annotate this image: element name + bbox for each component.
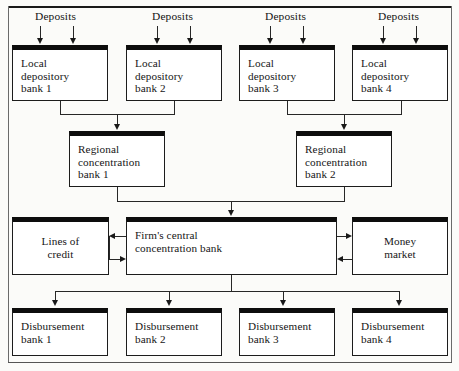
firms-central-concentration-bank-label: Firm's central concentration bank [135,229,222,254]
disbursement-bank-3-label: Disbursement bank 3 [248,320,311,345]
deposit-arrowhead-4a [380,38,386,44]
regional-concentration-bank-1-label: Regional concentration bank 1 [78,143,140,181]
firms-central-concentration-bank[interactable]: Firm's central concentration bank [126,217,337,275]
deposit-arrowhead-2a [154,38,160,44]
credit-elbow-riser [109,236,110,260]
lines-of-credit-label: Lines of credit [42,235,80,260]
local2-dropline [174,101,175,114]
credit-to-central-arrowhead [120,256,126,262]
deposit-arrowhead-3b [300,38,306,44]
local1-dropline [60,101,61,114]
money-to-central-arrowhead [337,256,343,262]
deposit-arrowhead-3a [267,38,273,44]
frame-left-rule [8,6,9,363]
local-depository-bank-1[interactable]: Local depository bank 1 [12,45,108,101]
regional-concentration-bank-2[interactable]: Regional concentration bank 2 [296,131,392,187]
money-market-label: Money market [384,235,416,260]
central-feed-arrowhead [228,210,234,216]
disbursement-bank-4[interactable]: Disbursement bank 4 [352,308,448,356]
money-elbow-riser [352,236,353,260]
local4-dropline [401,101,402,114]
deposits-label-4: Deposits [378,10,419,22]
local3-dropline [287,101,288,114]
disbursement-bank-2-label: Disbursement bank 2 [135,320,198,345]
deposits-label-2: Deposits [152,10,193,22]
disbursement1-feed-arrowhead [52,300,58,306]
diagram-canvas: Deposits Deposits Deposits Deposits Loca… [0,0,459,371]
disbursement-bank-1-label: Disbursement bank 1 [21,320,84,345]
frame-top-rule [8,6,452,8]
local-depository-bank-2[interactable]: Local depository bank 2 [126,45,222,101]
deposit-arrowhead-1a [37,38,43,44]
central-to-credit-line [115,236,126,237]
disbursement-fanout-bus [55,291,399,292]
deposits-label-1: Deposits [35,10,76,22]
deposits-label-3: Deposits [265,10,306,22]
disbursement-bank-1[interactable]: Disbursement bank 1 [12,308,108,356]
frame-right-rule [451,6,452,363]
frame-bottom-rule [8,362,452,363]
credit-to-central-line [109,259,120,260]
deposit-arrowhead-2b [187,38,193,44]
local-depository-bank-4-label: Local depository bank 4 [361,57,409,95]
regional1-dropline [117,187,118,201]
regional-concentration-bank-1[interactable]: Regional concentration bank 1 [69,131,165,187]
local-depository-bank-2-label: Local depository bank 2 [135,57,183,95]
disbursement-bank-2[interactable]: Disbursement bank 2 [126,308,222,356]
central-dropline [231,275,232,291]
local-depository-bank-3[interactable]: Local depository bank 3 [239,45,335,101]
disbursement-bank-4-label: Disbursement bank 4 [361,320,424,345]
deposit-arrowhead-1b [70,38,76,44]
local-depository-bank-4[interactable]: Local depository bank 4 [352,45,448,101]
disbursement3-feed-arrowhead [280,300,286,306]
regional1-feed-arrowhead [114,124,120,130]
regional2-feed-arrowhead [341,124,347,130]
local-depository-bank-1-label: Local depository bank 1 [21,57,69,95]
disbursement-bank-3[interactable]: Disbursement bank 3 [239,308,335,356]
disbursement4-feed-arrowhead [396,300,402,306]
money-market[interactable]: Money market [352,217,448,275]
local-depository-bank-3-label: Local depository bank 3 [248,57,296,95]
lines-of-credit[interactable]: Lines of credit [12,217,109,275]
regional2-dropline [344,187,345,201]
disbursement2-feed-arrowhead [166,300,172,306]
regional-concentration-bank-2-label: Regional concentration bank 2 [305,143,367,181]
deposit-arrowhead-4b [413,38,419,44]
